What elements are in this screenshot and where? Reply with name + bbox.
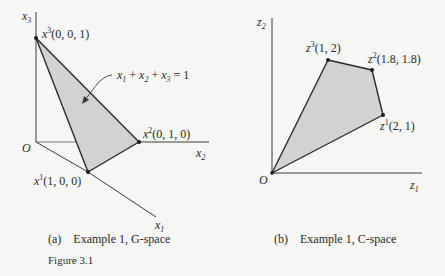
x1-axis bbox=[88, 172, 156, 217]
axis-label-z2: z2 bbox=[256, 15, 266, 31]
origin-point-b bbox=[270, 171, 274, 175]
simplex-triangle bbox=[36, 38, 139, 172]
axis-label-x3: x3 bbox=[21, 9, 31, 25]
figure-label: Figure 3.1 bbox=[48, 254, 93, 266]
vertex-z3 bbox=[326, 58, 330, 62]
vertex-label-x1: x1(1, 0, 0) bbox=[33, 173, 81, 188]
vertex-x2 bbox=[137, 140, 141, 144]
axis-label-x2: x2 bbox=[195, 146, 205, 162]
vertex-z1 bbox=[381, 113, 385, 117]
vertex-label-x3: x3(0, 0, 1) bbox=[41, 26, 89, 41]
vertex-label-z3: z3(1, 2) bbox=[305, 40, 341, 55]
caption-panel-a: (a) Example 1, G-space bbox=[48, 232, 170, 247]
plane-equation-label: x1 + x2 + x3 = 1 bbox=[116, 68, 189, 84]
vertex-x1 bbox=[86, 170, 90, 174]
vertex-label-z2: z2(1.8, 1.8) bbox=[367, 51, 421, 66]
vertex-label-z1: z1(2, 1) bbox=[379, 118, 415, 133]
vertex-z2 bbox=[370, 68, 374, 72]
feasible-region-polygon bbox=[272, 60, 383, 173]
panel-a-g-space: x3 O x2 x1 x3(0, 0, 1) x2(0, 1, 0) x1(1,… bbox=[21, 9, 209, 234]
origin-label-a: O bbox=[22, 141, 31, 155]
origin-label-b: O bbox=[259, 173, 268, 187]
vertex-label-x2: x2(0, 1, 0) bbox=[142, 126, 190, 141]
panel-b-c-space: z2 O z1 z3(1, 2) z2(1.8, 1.8) z1(2, 1) bbox=[256, 15, 422, 194]
axis-label-z1: z1 bbox=[409, 178, 419, 194]
caption-panel-b: (b) Example 1, C-space bbox=[274, 232, 396, 247]
vertex-x3 bbox=[34, 36, 38, 40]
